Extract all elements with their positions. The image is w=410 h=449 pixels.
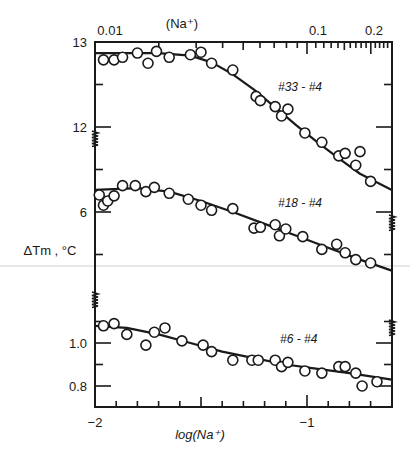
top-axis-title: (Na⁺) xyxy=(166,16,198,31)
data-point xyxy=(228,204,238,214)
data-point xyxy=(351,368,361,378)
data-point xyxy=(164,188,174,198)
data-point xyxy=(160,323,170,333)
series-label-6-4: #6 - #4 xyxy=(280,332,318,346)
data-point xyxy=(164,52,174,62)
chart: 13 12 6 1.0 0.8 −2 −1 0.01 0.1 0.2 (Na⁺)… xyxy=(0,0,410,449)
data-point xyxy=(372,377,382,387)
data-point xyxy=(283,104,293,114)
data-point xyxy=(141,340,151,350)
x-axis-title: log(Na⁺) xyxy=(175,427,225,442)
data-point xyxy=(143,58,153,68)
chart-background xyxy=(0,0,410,449)
data-point xyxy=(130,181,140,191)
data-point xyxy=(207,347,217,357)
data-point xyxy=(298,232,308,242)
data-point xyxy=(207,58,217,68)
data-point xyxy=(317,137,327,147)
data-point xyxy=(366,258,376,268)
top-tick-label-0-2: 0.2 xyxy=(365,23,383,38)
data-point xyxy=(253,355,263,365)
data-point xyxy=(300,128,310,138)
data-point xyxy=(149,327,159,337)
y-tick-label-12: 12 xyxy=(73,120,87,135)
data-point xyxy=(281,224,291,234)
y-tick-label-1-0: 1.0 xyxy=(69,336,87,351)
data-point xyxy=(196,47,206,57)
data-point xyxy=(357,381,367,391)
data-point xyxy=(255,96,265,106)
data-point xyxy=(109,191,119,201)
data-point xyxy=(122,329,132,339)
y-axis-title: ΔTm , °C xyxy=(24,243,77,258)
data-point xyxy=(270,220,280,230)
data-point xyxy=(183,194,193,204)
data-point xyxy=(351,160,361,170)
data-point xyxy=(270,102,280,112)
data-point xyxy=(228,65,238,75)
data-point xyxy=(300,366,310,376)
data-point xyxy=(366,176,376,186)
data-point xyxy=(283,357,293,367)
data-point xyxy=(132,48,142,58)
data-point xyxy=(317,244,327,254)
y-tick-label-0-8: 0.8 xyxy=(69,379,87,394)
top-tick-label-0-01: 0.01 xyxy=(97,23,122,38)
data-point xyxy=(196,200,206,210)
data-point xyxy=(207,205,217,215)
data-point xyxy=(228,355,238,365)
x-tick-label-neg2: −2 xyxy=(88,415,103,430)
data-point xyxy=(109,319,119,329)
data-point xyxy=(340,248,350,258)
data-point xyxy=(149,182,159,192)
data-point xyxy=(317,368,327,378)
series-label-18-4: #18 - #4 xyxy=(278,196,322,210)
series-label-33-4: #33 - #4 xyxy=(278,80,322,94)
data-point xyxy=(151,46,161,56)
data-point xyxy=(185,50,195,60)
data-point xyxy=(351,255,361,265)
data-point xyxy=(340,148,350,158)
y-tick-label-13: 13 xyxy=(73,35,87,50)
x-tick-label-neg1: −1 xyxy=(300,415,315,430)
data-point xyxy=(118,52,128,62)
data-point xyxy=(332,239,342,249)
data-point xyxy=(340,362,350,372)
data-point xyxy=(118,181,128,191)
data-point xyxy=(355,147,365,157)
data-point xyxy=(177,336,187,346)
data-point xyxy=(255,222,265,232)
y-tick-label-6: 6 xyxy=(80,205,87,220)
top-tick-label-0-1: 0.1 xyxy=(309,23,327,38)
data-point xyxy=(98,55,108,65)
data-point xyxy=(98,321,108,331)
